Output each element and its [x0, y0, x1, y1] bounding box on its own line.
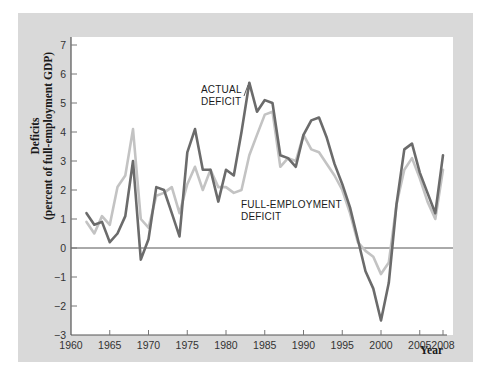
- x-tick-label: 1965: [98, 339, 122, 351]
- x-tick-label: 1985: [253, 339, 277, 351]
- fe-annotation-line1: FULL-EMPLOYMENT: [241, 199, 342, 211]
- y-tick-label: −1: [54, 271, 66, 283]
- x-tick-label: 1995: [331, 339, 355, 351]
- x-tick-label: 2000: [369, 339, 393, 351]
- x-tick-label: 1980: [214, 339, 238, 351]
- line-chart: −3−2−10123456719601965197019751980198519…: [0, 0, 491, 385]
- y-tick-label: 0: [60, 242, 66, 254]
- actual-annotation-line2: DEFICIT: [201, 96, 242, 108]
- y-axis-label-line2: (percent of full-employment GDP): [42, 52, 55, 220]
- x-tick-label: 1990: [292, 339, 316, 351]
- y-tick-label: −2: [54, 300, 66, 312]
- y-axis-label: Deficits (percent of full-employment GDP…: [22, 36, 62, 236]
- actual-annotation-line1: ACTUAL: [201, 84, 242, 96]
- fe-annotation-line2: DEFICIT: [241, 211, 342, 223]
- y-axis-label-line1: Deficits: [29, 52, 42, 220]
- full-employment-deficit-annotation: FULL-EMPLOYMENT DEFICIT: [241, 199, 342, 223]
- x-tick-label: 1960: [59, 339, 83, 351]
- x-axis-label: Year: [420, 344, 443, 356]
- axes: −3−2−10123456719601965197019751980198519…: [54, 37, 455, 351]
- x-tick-label: 1970: [137, 339, 161, 351]
- x-tick-label: 1975: [176, 339, 200, 351]
- actual-deficit-annotation: ACTUAL DEFICIT: [201, 84, 242, 108]
